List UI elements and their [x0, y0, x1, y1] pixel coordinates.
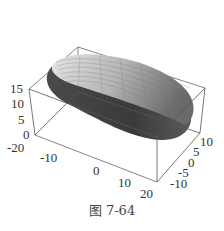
z-axis-labels: 15 10 5 0	[10, 81, 30, 142]
svg-text:15: 15	[10, 81, 23, 96]
svg-text:-10: -10	[40, 150, 57, 165]
x-axis-labels: -20 -10 0 10 20	[7, 140, 153, 200]
svg-text:10: 10	[200, 134, 213, 149]
svg-text:10: 10	[11, 96, 24, 111]
svg-text:-20: -20	[7, 140, 24, 155]
svg-text:5: 5	[18, 112, 25, 127]
svg-text:10: 10	[118, 175, 131, 190]
svg-text:-10: -10	[170, 176, 187, 191]
svg-text:20: 20	[140, 186, 153, 200]
svg-text:0: 0	[188, 155, 195, 170]
svg-text:0: 0	[93, 163, 100, 178]
surface-plot: 15 10 5 0 -20 -10 0 10 20 10 5 0 -5 -10	[0, 0, 224, 200]
figure-caption: 图 7-64	[0, 200, 224, 219]
